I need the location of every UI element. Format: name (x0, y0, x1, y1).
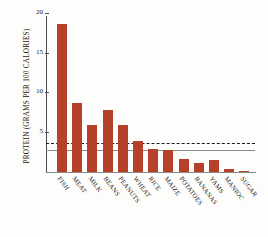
bar-fish (57, 24, 67, 172)
bar-wheat (133, 141, 143, 172)
bar-beans (103, 110, 113, 172)
bar-maize (163, 150, 173, 172)
bar-meat (72, 103, 82, 172)
bar-series (46, 14, 256, 172)
x-label-milk: MILK (87, 175, 103, 193)
x-label-meat: MEAT (72, 175, 89, 194)
plot-area: 5101520 (46, 14, 256, 173)
bar-bananas (194, 163, 204, 172)
bar-milk (87, 125, 97, 172)
x-axis-baseline (46, 172, 256, 173)
bar-potatoes (179, 159, 189, 172)
bar-rice (148, 149, 158, 172)
y-tick-label: 20 (36, 8, 43, 16)
y-tick-label: 10 (36, 87, 43, 95)
x-axis-labels: FISHMEATMILKBEANSPEANUTSWHEATRICEMAIZEPO… (46, 175, 258, 237)
y-tick-label: 15 (36, 48, 43, 56)
x-label-fish: FISH (57, 175, 72, 191)
x-label-rice: RICE (148, 175, 163, 192)
protein-bar-chart: PROTEIN (GRAMS PER 100 CALORIES) 5101520… (0, 0, 268, 237)
y-tick-label: 5 (40, 127, 44, 135)
bar-yams (209, 160, 219, 172)
y-axis-title: PROTEIN (GRAMS PER 100 CALORIES) (23, 11, 31, 181)
bar-peanuts (118, 125, 128, 172)
